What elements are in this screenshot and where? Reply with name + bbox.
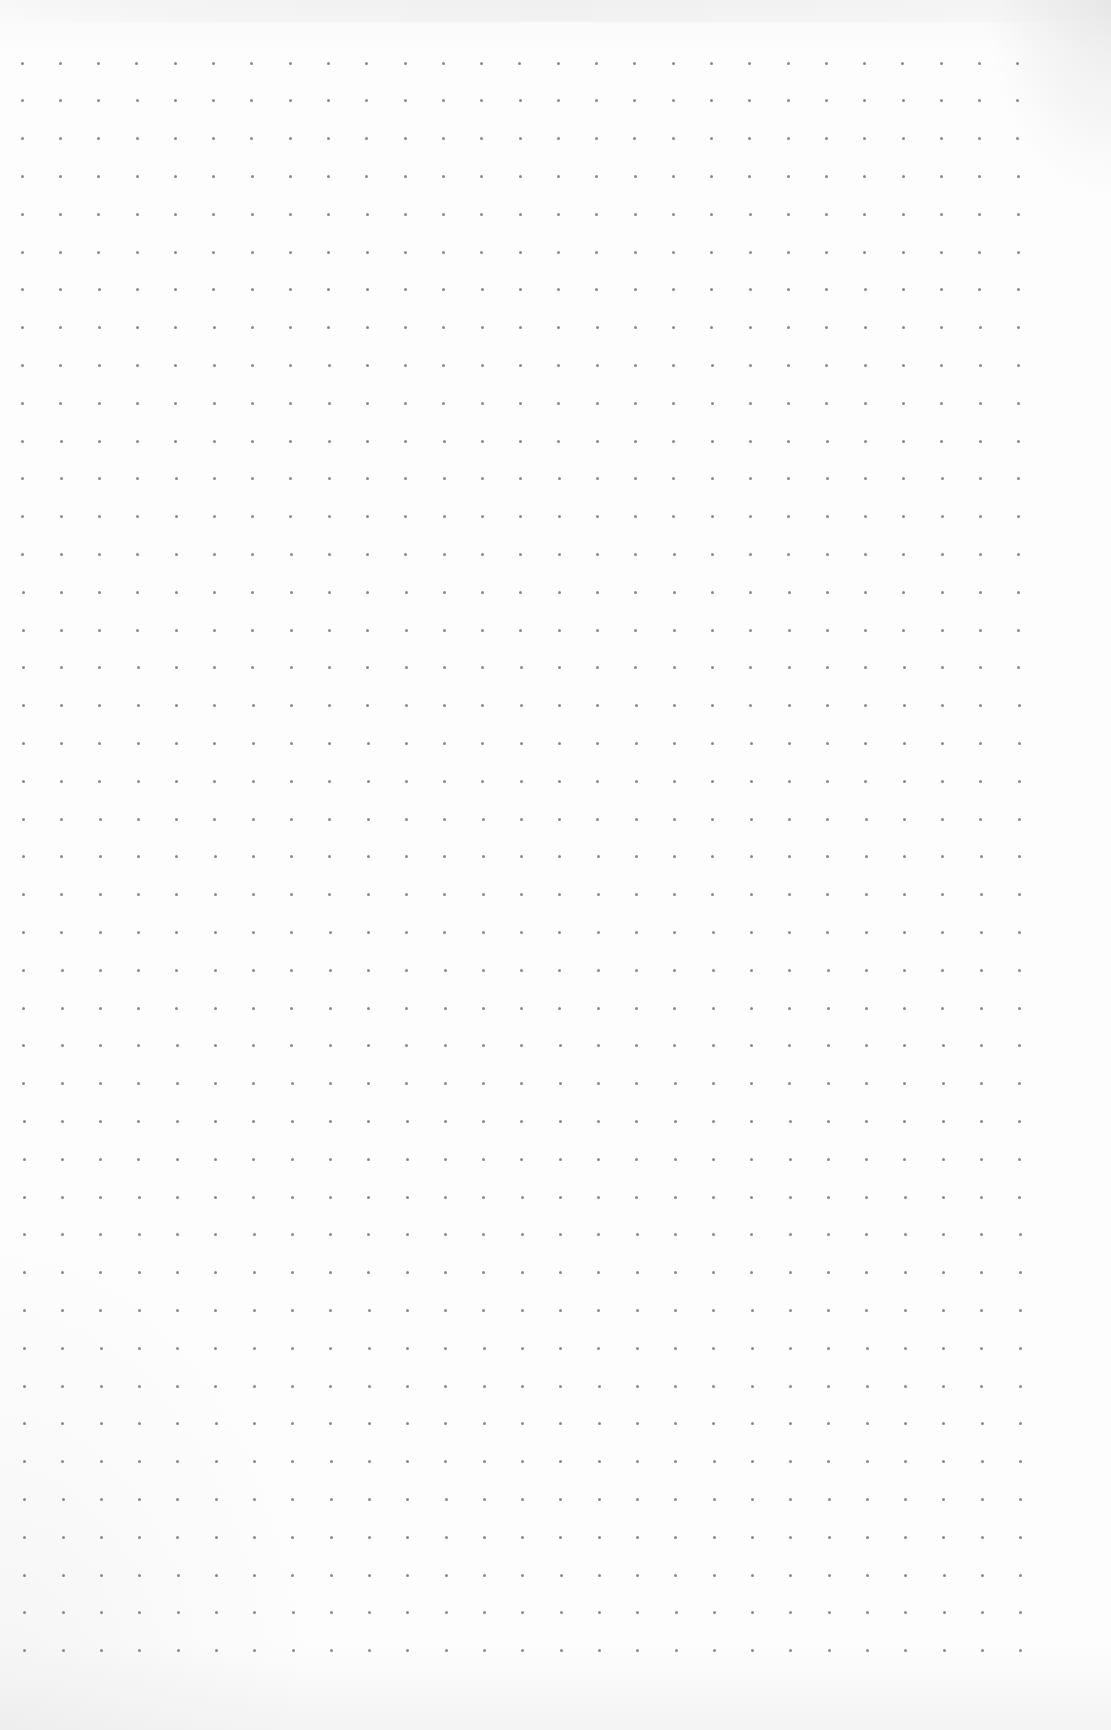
grid-dot [789, 1422, 792, 1425]
grid-dot [674, 1574, 677, 1577]
grid-dot [634, 515, 637, 518]
grid-dot [597, 1044, 600, 1047]
grid-dot [62, 1611, 65, 1614]
grid-dot [445, 1498, 448, 1501]
grid-dot [21, 477, 24, 480]
grid-dot [673, 1007, 676, 1010]
grid-dot [290, 818, 293, 821]
grid-dot [136, 440, 139, 443]
grid-dot [712, 1120, 715, 1123]
grid-dot [597, 1082, 600, 1085]
grid-dot [405, 704, 408, 707]
grid-dot [636, 1460, 639, 1463]
grid-dot [97, 251, 100, 254]
grid-dot [137, 742, 140, 745]
grid-dot [21, 364, 24, 367]
grid-dot [519, 402, 522, 405]
grid-dot [1018, 1044, 1021, 1047]
grid-dot [214, 1120, 217, 1123]
grid-dot [481, 402, 484, 405]
grid-dot [97, 175, 100, 178]
grid-dot [636, 1536, 639, 1539]
grid-dot [673, 818, 676, 821]
grid-dot [174, 213, 177, 216]
grid-dot [710, 137, 713, 140]
grid-dot [214, 1158, 217, 1161]
grid-dot [1018, 931, 1021, 934]
grid-dot [750, 1196, 753, 1199]
grid-dot [367, 1233, 370, 1236]
grid-dot [22, 629, 25, 632]
grid-dot [980, 1271, 983, 1274]
grid-dot [367, 893, 370, 896]
grid-dot [825, 402, 828, 405]
grid-dot [21, 62, 24, 65]
grid-dot [942, 1347, 945, 1350]
grid-dot [827, 1158, 830, 1161]
grid-dot [519, 629, 522, 632]
grid-dot [291, 1574, 294, 1577]
grid-dot [442, 99, 445, 102]
grid-dot [750, 1233, 753, 1236]
grid-dot [483, 1347, 486, 1350]
grid-dot [137, 969, 140, 972]
grid-dot [291, 1385, 294, 1388]
grid-dot [521, 1196, 524, 1199]
grid-dot [712, 931, 715, 934]
grid-dot [368, 1385, 371, 1388]
grid-dot [214, 1233, 217, 1236]
grid-dot [980, 1007, 983, 1010]
grid-dot [482, 893, 485, 896]
grid-dot [252, 1120, 255, 1123]
grid-dot [291, 1422, 294, 1425]
grid-dot [902, 326, 905, 329]
grid-dot [711, 402, 714, 405]
grid-dot [21, 99, 24, 102]
grid-dot [59, 288, 62, 291]
grid-dot [61, 1460, 64, 1463]
grid-dot [175, 893, 178, 896]
grid-dot [138, 1498, 141, 1501]
grid-dot [212, 251, 215, 254]
grid-dot [405, 780, 408, 783]
grid-dot [634, 251, 637, 254]
grid-dot [672, 175, 675, 178]
grid-dot [251, 364, 254, 367]
grid-dot [290, 704, 293, 707]
grid-dot [826, 931, 829, 934]
grid-dot [596, 477, 599, 480]
grid-dot [138, 1422, 141, 1425]
grid-dot [710, 62, 713, 65]
grid-dot [251, 553, 254, 556]
grid-dot [980, 1158, 983, 1161]
grid-dot [521, 1422, 524, 1425]
grid-dot [941, 515, 944, 518]
grid-dot [979, 553, 982, 556]
grid-dot [520, 1044, 523, 1047]
grid-dot [176, 1347, 179, 1350]
grid-dot [635, 1196, 638, 1199]
grid-dot [674, 1309, 677, 1312]
grid-dot [979, 666, 982, 669]
grid-dot [406, 1498, 409, 1501]
grid-dot [865, 931, 868, 934]
grid-dot [291, 1082, 294, 1085]
grid-dot [672, 326, 675, 329]
grid-dot [328, 553, 331, 556]
grid-dot [366, 704, 369, 707]
grid-dot [980, 1385, 983, 1388]
grid-dot [710, 213, 713, 216]
grid-dot [636, 1574, 639, 1577]
grid-dot [636, 1385, 639, 1388]
grid-dot [978, 175, 981, 178]
grid-dot [902, 402, 905, 405]
grid-dot [61, 1007, 64, 1010]
grid-dot [902, 251, 905, 254]
grid-dot [290, 742, 293, 745]
grid-dot [675, 1611, 678, 1614]
grid-dot [1019, 1309, 1022, 1312]
grid-dot [212, 99, 215, 102]
grid-dot [980, 1233, 983, 1236]
grid-dot [1016, 137, 1019, 140]
grid-dot [979, 818, 982, 821]
